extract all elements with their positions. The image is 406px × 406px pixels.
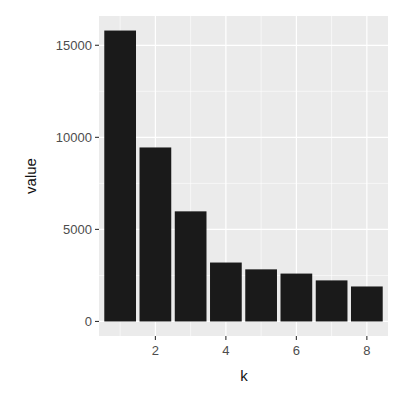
bar-k-5	[245, 269, 277, 321]
bar-k-6	[281, 274, 313, 322]
y-tick-label: 5000	[63, 222, 92, 237]
x-tick-label: 4	[222, 343, 229, 358]
bar-k-3	[175, 211, 207, 321]
x-axis-title: k	[240, 367, 248, 384]
x-tick-label: 2	[152, 343, 159, 358]
bar-k-8	[351, 286, 383, 321]
y-axis: 050001000015000	[56, 38, 99, 329]
bar-k-4	[210, 263, 242, 322]
bar-k-2	[140, 147, 172, 321]
x-tick-label: 8	[363, 343, 370, 358]
x-tick-label: 6	[293, 343, 300, 358]
x-axis: 2468	[152, 336, 371, 358]
y-tick-label: 10000	[56, 130, 92, 145]
bar-chart: 050001000015000 2468 k value	[0, 0, 406, 406]
bar-k-1	[104, 31, 136, 322]
y-tick-label: 0	[85, 314, 92, 329]
y-tick-label: 15000	[56, 38, 92, 53]
y-axis-title: value	[22, 158, 39, 194]
bar-k-7	[316, 280, 348, 321]
